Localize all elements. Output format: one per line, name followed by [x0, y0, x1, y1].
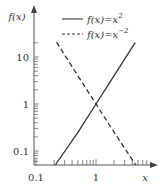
- legend-label-x-inverse-squared: f(x)=x−2: [86, 27, 129, 40]
- chart: 10 1 0.1 0.1 1 f(x) x f(x)=x2 f(x)=x−2: [0, 0, 160, 189]
- x-tick-label-0.1: 0.1: [28, 172, 44, 183]
- y-ticks: [34, 43, 39, 162]
- x-axis-arrow-icon: [150, 162, 158, 168]
- x-ticks: [36, 159, 147, 165]
- y-tick-label-1: 1: [23, 99, 29, 110]
- y-tick-label-0.1: 0.1: [13, 146, 29, 157]
- x-axis-label: x: [142, 172, 148, 183]
- y-axis-label: f(x): [7, 11, 25, 22]
- y-tick-label-10: 10: [16, 52, 29, 63]
- legend: f(x)=x2 f(x)=x−2: [62, 12, 129, 40]
- legend-label-x-squared: f(x)=x2: [86, 12, 123, 25]
- y-axis-arrow-icon: [31, 5, 37, 13]
- x-tick-label-1: 1: [93, 172, 99, 183]
